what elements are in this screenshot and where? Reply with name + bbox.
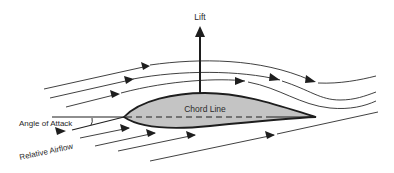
streamline-2-mid: [133, 72, 280, 80]
arrow-icon: [146, 129, 156, 137]
arrow-icon: [265, 131, 275, 139]
streamline-3-upstream: [66, 94, 118, 107]
airflow-arrow-icon: [55, 127, 66, 135]
arrow-icon: [186, 131, 196, 139]
streamline-1-mid: [150, 61, 310, 80]
angle-arc: [91, 118, 92, 125]
airfoil: Chord Line: [124, 93, 316, 128]
chord-line-label: Chord Line: [184, 104, 226, 114]
arrow-icon: [141, 62, 150, 70]
lift-label: Lift: [194, 12, 206, 22]
arrow-icon: [120, 124, 130, 132]
streamline-3-mid: [121, 80, 245, 93]
relative-airflow-label: Relative Airflow: [19, 142, 75, 162]
airfoil-lift-diagram: Lift Chord Line Angle of Attack Relative…: [0, 0, 394, 173]
airflow-reference-line: [72, 117, 124, 130]
lift-arrow-icon: [195, 26, 205, 37]
lower-streamline-2: [95, 133, 155, 146]
arrow-icon: [305, 75, 316, 83]
arrow-icon: [110, 90, 120, 98]
arrow-icon: [235, 77, 245, 85]
angle-of-attack-label: Angle of Attack: [19, 119, 73, 128]
streamline-1-downstream: [318, 76, 376, 83]
arrow-icon: [269, 73, 280, 81]
arrow-icon: [124, 76, 134, 84]
streamline-1-upstream: [44, 66, 148, 89]
streamline-2-upstream: [50, 80, 130, 98]
streamline-2-downstream: [282, 81, 376, 100]
lower-streamline-4: [150, 135, 274, 161]
lower-streamline-3: [118, 135, 195, 151]
